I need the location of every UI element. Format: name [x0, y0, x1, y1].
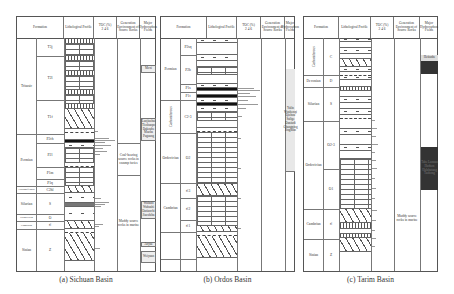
formation-t2l: T2l	[36, 56, 64, 100]
toc-ticks: 2 4 6	[245, 28, 252, 32]
header-fields: Major Hydrocarbon Fields	[285, 17, 295, 38]
system-silurian: Silurian	[17, 193, 36, 214]
formation-e1: ∈1	[180, 220, 196, 232]
field-anyue: Anyue	[141, 242, 156, 247]
system-ordovician: Ordovician	[304, 121, 323, 209]
formation-d: D	[323, 75, 339, 87]
panel-ordos: Formation Lithological Profile TOC (%) 2…	[160, 16, 295, 272]
system-ordovician: Ordovician	[161, 133, 180, 183]
formation-c2hl: C2hl	[36, 186, 64, 193]
panel-sichuan: Formation Lithological Profile TOC (%) 2…	[16, 16, 156, 272]
system-cambrian: Cambrian	[161, 183, 180, 232]
header-formation: Formation	[17, 17, 64, 38]
formation-o1: O1	[323, 169, 339, 209]
header-formation: Formation	[161, 17, 207, 38]
system-permian: Permian	[161, 38, 180, 100]
header-toc: TOC (%) 2 4 6	[237, 17, 261, 38]
formation-e2: ∈2	[180, 198, 196, 220]
formation-p2h: P2h	[180, 55, 196, 84]
header-environment: Generation Environment of Source Rocks	[394, 17, 420, 38]
header-lithology: Lithological Profile	[64, 17, 94, 38]
system-sinian: Sinian	[17, 229, 36, 271]
formation-s: S	[323, 87, 339, 121]
toc-ticks: 2 4 6	[102, 28, 109, 32]
system-cambrian: Cambrian	[17, 221, 36, 229]
header-toc: TOC (%) 2 4 6	[94, 17, 117, 38]
formation-t3j: T3j	[36, 38, 64, 56]
header-formation: Formation	[304, 17, 339, 38]
system-permian: Permian	[17, 134, 36, 186]
field-tahe-group: Tahe Lunnan Hudson Halahatang Tazhong	[421, 147, 438, 190]
system-silurian: Silurian	[304, 87, 323, 121]
formation-c: C	[323, 38, 339, 75]
formation-p1t: P1t	[180, 92, 196, 100]
formation-o2-3: O2-3	[323, 121, 339, 169]
lithology-column	[65, 38, 94, 271]
table-header: Formation Lithological Profile TOC (%) 2…	[161, 17, 294, 39]
system-carboniferous: Carboniferous	[161, 100, 180, 133]
lithology-column	[340, 38, 371, 271]
env-coal-swamp: Coal-bearing source rocks in swamp facie…	[117, 143, 140, 175]
field-wubaiti: Wubaiti Wuhashi Datianchi Jiaoshiba	[141, 201, 156, 219]
formation-e3: ∈3	[180, 183, 196, 198]
toc-curve	[238, 38, 261, 271]
header-lithology: Lithological Profile	[339, 17, 371, 38]
toc-curve	[372, 38, 394, 271]
field-luojiazhai: Luojiazhai Tieshanpo Dukouhe Maoba Pugua…	[141, 118, 156, 141]
formation-o2: O2	[180, 133, 196, 183]
formation-p2ch: P2ch	[36, 134, 64, 143]
caption-tarim: (c) Tarim Basin	[303, 275, 438, 284]
formation-p1s: P1s	[180, 84, 196, 92]
caption-sichuan: (a) Sichuan Basin	[16, 275, 156, 284]
formation-cambrian: ∈	[36, 221, 64, 229]
formation-o: O	[36, 214, 64, 221]
formation-t1f: T1f	[36, 100, 64, 134]
system-carboniferous: Carboniferous	[304, 38, 323, 75]
system-sinian: Sinian	[304, 239, 323, 271]
env-marine-muddy: Muddy source rocks in marine	[394, 203, 420, 233]
formation-p2sq: P2sq	[180, 38, 196, 55]
table-header: Formation Lithological Profile TOC (%) 2…	[17, 17, 155, 39]
field-moxi: Moxi	[141, 65, 156, 73]
system-carboniferous: Carboniferous	[17, 186, 36, 193]
header-fields: Major Hydrocarbon Fields	[140, 17, 156, 38]
header-lithology: Lithological Profile	[207, 17, 237, 38]
formation-c2-3: C2-3	[180, 100, 196, 133]
field-yulin-group: Yulin Wushenqi Qizhou Sulige Daniudi Cha…	[286, 69, 295, 172]
formation-p1q: P1q	[36, 179, 64, 186]
header-fields: Major Hydrocarbon Fields	[420, 17, 438, 38]
caption-ordos: (b) Ordos Basin	[160, 275, 295, 284]
toc-curve	[95, 38, 117, 271]
header-toc: TOC (%) 2 4 6	[371, 17, 394, 38]
system-cambrian: Cambrian	[304, 209, 323, 239]
toc-ticks: 2 4 6	[379, 28, 386, 32]
formation-s: S	[36, 193, 64, 214]
system-triassic: Triassic	[17, 38, 36, 134]
system-ordovician: Ordovician	[17, 214, 36, 221]
panel-tarim: Formation Lithological Profile TOC (%) 2…	[303, 16, 438, 272]
field-weiyuan: Weiyuan	[141, 251, 156, 263]
field-dark-block-upper	[421, 61, 438, 74]
env-marine-muddy: Muddy source rocks in marine	[117, 175, 140, 271]
table-header: Formation Lithological Profile TOC (%) 2…	[304, 17, 437, 39]
formation-cambrian: ∈	[323, 209, 339, 239]
system-devonian: Devonian	[304, 75, 323, 87]
header-environment: Generation Environment of Source Rocks	[117, 17, 140, 38]
lithology-column	[197, 38, 237, 271]
formation-z: Z	[323, 239, 339, 271]
formation-z: Z	[36, 229, 64, 271]
formation-p1m: P1m	[36, 167, 64, 179]
formation-p2l: P2l	[36, 143, 64, 167]
